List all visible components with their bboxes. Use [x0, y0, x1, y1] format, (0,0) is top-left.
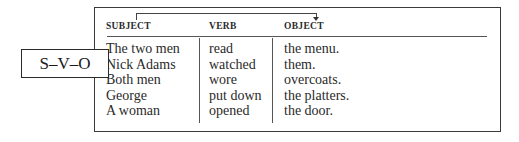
verb-cell: opened [209, 103, 262, 119]
subject-cell: George [106, 88, 180, 104]
object-cell: overcoats. [284, 72, 349, 88]
subject-column: The two men Nick Adams Both men George A… [106, 41, 180, 119]
verb-cell: put down [209, 88, 262, 104]
column-divider-subject-verb [199, 38, 200, 123]
header-verb: VERB [209, 21, 237, 31]
pattern-label: S–V–O [21, 49, 109, 78]
header-divider [107, 36, 487, 37]
verb-cell: watched [209, 57, 262, 73]
object-cell: the platters. [284, 88, 349, 104]
subject-cell: Nick Adams [106, 57, 180, 73]
connector-left-tick [136, 13, 137, 20]
pattern-label-text: S–V–O [39, 54, 90, 74]
header-subject: SUBJECT [106, 21, 151, 31]
subject-cell: Both men [106, 72, 180, 88]
object-column: the menu. them. overcoats. the platters.… [284, 41, 349, 119]
subject-cell: A woman [106, 103, 180, 119]
verb-column: read watched wore put down opened [209, 41, 262, 119]
subject-object-connector-line [136, 13, 316, 14]
header-object: OBJECT [284, 21, 324, 31]
subject-cell: The two men [106, 41, 180, 57]
object-cell: the door. [284, 103, 349, 119]
verb-cell: read [209, 41, 262, 57]
column-divider-verb-object [272, 38, 273, 123]
verb-cell: wore [209, 72, 262, 88]
object-cell: them. [284, 57, 349, 73]
object-cell: the menu. [284, 41, 349, 57]
